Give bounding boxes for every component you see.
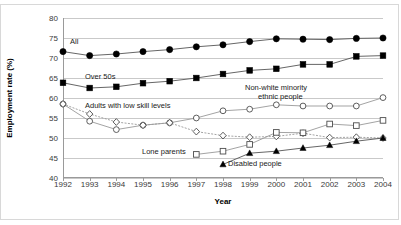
x-tick-2000: 2000 [267, 180, 285, 189]
data-point [300, 130, 306, 136]
data-point [274, 130, 280, 136]
x-tick-2002: 2002 [321, 180, 339, 189]
data-point [326, 134, 332, 141]
employment-rate-line-chart: Employment rate (%) 404550556065707580 1… [0, 0, 401, 225]
y-axis-title: Employment rate (%) [5, 58, 14, 138]
y-tick-75: 75 [49, 34, 58, 43]
data-point [247, 106, 253, 112]
data-point [193, 44, 199, 50]
x-tick-2001: 2001 [294, 180, 312, 189]
data-point [60, 49, 66, 55]
data-point [247, 68, 253, 74]
annotation-all: All [70, 38, 78, 47]
x-tick-1993: 1993 [81, 180, 99, 189]
series-all [60, 35, 386, 59]
data-point [220, 148, 226, 154]
data-point [380, 118, 386, 124]
data-point [220, 71, 226, 77]
annotation-lone-parents: Lone parents [142, 148, 186, 157]
annotation-over-50s: Over 50s [85, 73, 115, 82]
data-point [300, 36, 306, 42]
x-axis-tick-labels: 1992199319941995199619971998199920002001… [63, 180, 383, 194]
data-point [327, 37, 333, 43]
data-point [87, 118, 93, 124]
y-tick-80: 80 [49, 14, 58, 23]
data-point [327, 121, 333, 127]
data-point [193, 128, 199, 135]
data-point [273, 102, 279, 108]
annotation-adults-low-skill: Adults with low skill levels [85, 102, 170, 111]
y-tick-50: 50 [49, 134, 58, 143]
data-point [220, 132, 226, 139]
data-point [273, 36, 279, 42]
data-point [247, 39, 253, 45]
x-tick-2003: 2003 [347, 180, 365, 189]
data-point [380, 95, 386, 101]
data-point [114, 84, 120, 90]
data-point [380, 35, 386, 41]
x-tick-1995: 1995 [134, 180, 152, 189]
data-point [113, 51, 119, 57]
data-point [220, 108, 226, 114]
data-point [246, 134, 252, 141]
data-point [327, 103, 333, 109]
data-point [60, 80, 66, 86]
data-point [353, 35, 359, 41]
plot-area [63, 18, 383, 178]
data-point [220, 42, 226, 48]
data-point [140, 80, 146, 86]
data-point [354, 54, 360, 60]
x-axis-title: Year [63, 197, 383, 206]
data-point [113, 119, 119, 126]
data-point [194, 75, 200, 81]
series-layer [63, 18, 383, 178]
x-tick-2004: 2004 [374, 180, 392, 189]
data-point [167, 78, 173, 84]
x-tick-1999: 1999 [241, 180, 259, 189]
data-point [194, 152, 200, 158]
data-point [87, 85, 93, 91]
y-tick-60: 60 [49, 94, 58, 103]
data-point [167, 47, 173, 53]
y-tick-65: 65 [49, 74, 58, 83]
x-tick-1996: 1996 [161, 180, 179, 189]
x-tick-1994: 1994 [107, 180, 125, 189]
data-point [87, 53, 93, 59]
y-axis-tick-labels: 404550556065707580 [38, 18, 58, 178]
y-tick-45: 45 [49, 154, 58, 163]
x-tick-1998: 1998 [214, 180, 232, 189]
x-tick-1997: 1997 [187, 180, 205, 189]
data-point [327, 62, 333, 68]
annotation-minority-line2: ethnic people [258, 93, 303, 102]
data-point [300, 103, 306, 109]
data-point [380, 53, 386, 59]
x-tick-1992: 1992 [54, 180, 72, 189]
data-point [274, 66, 280, 72]
data-point [354, 123, 360, 129]
y-tick-70: 70 [49, 54, 58, 63]
data-point [113, 127, 119, 133]
y-axis-title-container: Employment rate (%) [16, 18, 28, 178]
data-point [353, 103, 359, 109]
data-point [247, 142, 253, 148]
data-point [193, 115, 199, 121]
data-point [140, 49, 146, 55]
y-tick-55: 55 [49, 114, 58, 123]
data-point [86, 111, 92, 118]
data-point [300, 62, 306, 68]
annotation-disabled-people: Disabled people [228, 160, 282, 169]
